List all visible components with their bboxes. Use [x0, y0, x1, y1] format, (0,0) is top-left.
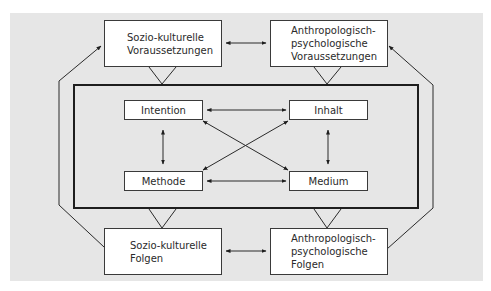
node-label-line: Sozio-kulturelle: [130, 239, 221, 252]
node-label: Methode: [142, 175, 186, 188]
node-methode: Methode: [124, 171, 203, 191]
node-anthropologisch-psychologische-voraussetzungen: Anthropologisch- psychologische Vorausse…: [270, 20, 388, 67]
node-label-line: Voraussetzungen: [291, 50, 387, 63]
node-label-line: Folgen: [130, 252, 221, 265]
funnel-top-right: [314, 67, 341, 84]
node-label-line: psychologische: [291, 245, 387, 258]
funnel-bottom-right: [314, 209, 341, 228]
node-label-line: Voraussetzungen: [127, 44, 221, 57]
node-sozio-kulturelle-voraussetzungen: Sozio-kulturelle Voraussetzungen: [104, 20, 222, 67]
funnel-top-left: [149, 67, 176, 84]
node-label-line: Folgen: [291, 258, 387, 271]
node-label: Inhalt: [314, 104, 342, 117]
node-intention: Intention: [124, 100, 203, 120]
node-medium: Medium: [289, 171, 368, 191]
node-sozio-kulturelle-folgen: Sozio-kulturelle Folgen: [104, 228, 222, 275]
node-label-line: Anthropologisch-: [291, 232, 387, 245]
node-label-line: psychologische: [291, 37, 387, 50]
funnel-bottom-left: [149, 209, 176, 228]
node-anthropologisch-psychologische-folgen: Anthropologisch- psychologische Folgen: [270, 228, 388, 275]
node-label-line: Anthropologisch-: [291, 24, 387, 37]
node-label: Medium: [309, 175, 349, 188]
node-inhalt: Inhalt: [289, 100, 368, 120]
node-label: Intention: [141, 104, 186, 117]
node-label-line: Sozio-kulturelle: [127, 31, 221, 44]
